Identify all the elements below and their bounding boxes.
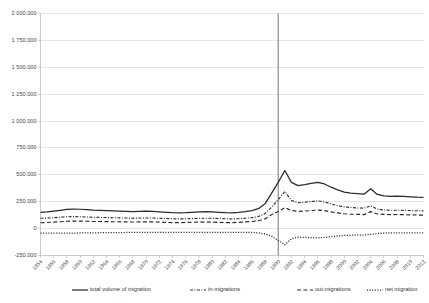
x-axis-tick-label: 1960 xyxy=(71,258,83,270)
x-axis-tick-label: 1980 xyxy=(203,258,215,270)
x-axis-tick-label: 1962 xyxy=(84,258,96,270)
series-line-in-migrations xyxy=(41,192,424,219)
x-axis-tick-label: 1970 xyxy=(137,258,149,270)
x-axis-tick-label: 1954 xyxy=(31,258,43,270)
x-axis-tick-label: 2006 xyxy=(374,258,386,270)
data-series-group xyxy=(41,171,424,245)
x-axis-tick-label: 2002 xyxy=(348,258,360,270)
x-axis-tick-label: 1964 xyxy=(97,258,109,270)
x-axis-tick-label: 1958 xyxy=(57,258,69,270)
legend-label: net migration xyxy=(385,286,417,292)
x-axis-tick-label: 2004 xyxy=(361,258,373,270)
x-axis-tick-label: 1972 xyxy=(150,258,162,270)
y-axis-tick-label: 2 000.000 xyxy=(12,10,37,16)
x-axis-tick-label: 2010 xyxy=(401,258,413,270)
series-line-net-migration xyxy=(41,232,424,244)
x-axis-tick-label: 1996 xyxy=(308,258,320,270)
x-axis-tick-label: 1988 xyxy=(256,258,268,270)
chart-canvas: 2 000.0001 750.0001 500.0001 250.0001 00… xyxy=(0,0,429,303)
legend-label: out-migrations xyxy=(315,286,351,292)
migration-line-chart: 2 000.0001 750.0001 500.0001 250.0001 00… xyxy=(0,0,429,303)
y-axis-tick-label: 250.000 xyxy=(16,198,36,204)
y-axis-tick-label: -250.000 xyxy=(14,252,36,258)
x-axis-tick-label: 1974 xyxy=(163,258,175,270)
y-axis-tick-label: 1 750.000 xyxy=(12,37,37,43)
y-axis-tick-label: 1 000.000 xyxy=(12,118,37,124)
x-axis-tick-label: 1986 xyxy=(242,258,254,270)
x-axis-tick-label: 2012 xyxy=(414,258,426,270)
y-axis-tick-label: 1 250.000 xyxy=(12,91,37,97)
x-axis-tick-label: 1982 xyxy=(216,258,228,270)
series-line-total-volume-of-migration xyxy=(41,171,424,213)
x-axis-tick-label: 1992 xyxy=(282,258,294,270)
x-axis-tick-labels: 1954195619581960196219641966196819701972… xyxy=(31,258,426,270)
y-axis-tick-label: 0 xyxy=(33,225,36,231)
x-axis-tick-label: 2008 xyxy=(388,258,400,270)
x-axis-tick-label: 1998 xyxy=(322,258,334,270)
x-axis-tick-label: 1978 xyxy=(189,258,201,270)
x-axis-tick-label: 1990 xyxy=(269,258,281,270)
x-axis-tick-label: 2000 xyxy=(335,258,347,270)
x-axis-tick-label: 1994 xyxy=(295,258,307,270)
y-axis-tick-label: 1 500.000 xyxy=(12,64,37,70)
x-axis-tick-label: 1968 xyxy=(123,258,135,270)
y-axis-tick-labels: 2 000.0001 750.0001 500.0001 250.0001 00… xyxy=(12,10,37,258)
x-axis-tick-label: 1976 xyxy=(176,258,188,270)
x-axis-tick-label: 1966 xyxy=(110,258,122,270)
chart-legend: total volume of migrationin-migrationsou… xyxy=(72,286,417,292)
legend-label: in-migrations xyxy=(208,286,240,292)
y-axis-tick-label: 750.000 xyxy=(16,144,36,150)
y-axis-tick-label: 500.000 xyxy=(16,171,36,177)
x-axis-tick-label: 1956 xyxy=(44,258,56,270)
legend-label: total volume of migration xyxy=(90,286,151,292)
x-axis-tick-label: 1984 xyxy=(229,258,241,270)
